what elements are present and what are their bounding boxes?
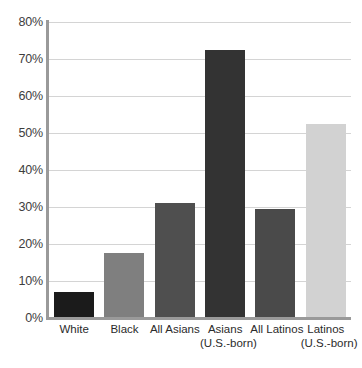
y-tick-label: 30% <box>0 200 43 214</box>
x-category-label-line2: (U.S.-born) <box>301 336 351 350</box>
x-category-label: Black <box>99 322 149 336</box>
x-axis-category-labels: WhiteBlackAll AsiansAsians(U.S.-born)All… <box>49 322 351 368</box>
plot-area <box>49 22 351 318</box>
x-category-label: Asians(U.S.-born) <box>200 322 250 350</box>
bar-slot <box>99 22 149 318</box>
bar-chart: 0%10%20%30%40%50%60%70%80% WhiteBlackAll… <box>0 0 362 368</box>
y-axis-line <box>46 20 49 320</box>
bar[interactable] <box>255 209 295 318</box>
y-axis-tick-labels: 0%10%20%30%40%50%60%70%80% <box>0 0 43 368</box>
x-axis-line <box>46 317 351 320</box>
y-tick-label: 40% <box>0 163 43 177</box>
bar[interactable] <box>155 203 195 318</box>
bar-slot <box>150 22 200 318</box>
bar-slot <box>49 22 99 318</box>
y-tick-label: 0% <box>0 311 43 325</box>
bar[interactable] <box>104 253 144 318</box>
bar-slot <box>200 22 250 318</box>
y-tick-label: 50% <box>0 126 43 140</box>
x-category-label: All Asians <box>150 322 200 336</box>
x-category-label-line1: All Asians <box>150 322 200 336</box>
x-category-label: All Latinos <box>250 322 300 336</box>
bar[interactable] <box>54 292 94 318</box>
bar-slot <box>250 22 300 318</box>
y-tick-label: 60% <box>0 89 43 103</box>
y-tick-label: 80% <box>0 15 43 29</box>
x-category-label-line1: Latinos <box>301 322 351 336</box>
x-category-label: Latinos(U.S.-born) <box>301 322 351 350</box>
x-category-label-line1: Black <box>99 322 149 336</box>
y-tick-label: 20% <box>0 237 43 251</box>
x-category-label-line2: (U.S.-born) <box>200 336 250 350</box>
y-tick-label: 10% <box>0 274 43 288</box>
bar[interactable] <box>306 124 346 318</box>
x-category-label: White <box>49 322 99 336</box>
x-category-label-line1: White <box>49 322 99 336</box>
x-category-label-line1: All Latinos <box>250 322 300 336</box>
y-tick-label: 70% <box>0 52 43 66</box>
x-category-label-line1: Asians <box>200 322 250 336</box>
bar-slot <box>301 22 351 318</box>
bar[interactable] <box>205 50 245 318</box>
